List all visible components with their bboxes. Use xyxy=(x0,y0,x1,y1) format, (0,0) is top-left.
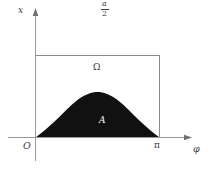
region-label-a: A xyxy=(99,116,106,125)
y-axis-label: x xyxy=(18,6,23,15)
x-tick-label-pi: π xyxy=(154,141,160,150)
x-axis-label: φ xyxy=(193,144,200,154)
origin-label: O xyxy=(23,141,31,151)
x-axis-arrowhead xyxy=(184,135,192,141)
y-axis-arrowhead xyxy=(33,8,39,16)
plot-area xyxy=(0,0,209,177)
y-axis xyxy=(33,8,39,161)
figure-canvas: x φ O π a 2 Ω A xyxy=(0,0,209,177)
region-a-fill xyxy=(36,92,160,138)
region-label-omega: Ω xyxy=(93,63,100,72)
